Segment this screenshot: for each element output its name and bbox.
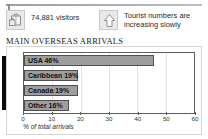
bar-label: USA 46% bbox=[25, 57, 58, 64]
bar-canada: Canada 19% bbox=[24, 85, 78, 96]
trend-text: Tourist numbers are increasing slowly bbox=[124, 10, 190, 29]
bar-usa: USA 46% bbox=[24, 55, 154, 66]
bar-caribbean: Caribbean 19% bbox=[24, 70, 78, 81]
suitcase-icon bbox=[6, 10, 25, 30]
tick-label: 20 bbox=[77, 115, 84, 122]
top-divider bbox=[6, 4, 202, 6]
plot-area: USA 46%Caribbean 19%Canada 19%Other 16% bbox=[23, 52, 195, 114]
chart-panel: USA 46%Caribbean 19%Canada 19%Other 16% … bbox=[6, 46, 202, 135]
stat-visitors: 74,881 visitors bbox=[6, 10, 79, 34]
bar-label: Caribbean 19% bbox=[25, 72, 78, 79]
x-axis-ticks: 0102030405060 bbox=[23, 115, 195, 123]
visitors-count: 74,881 visitors bbox=[31, 10, 79, 23]
bar-label: Canada 19% bbox=[25, 87, 69, 94]
tick-label: 0 bbox=[21, 115, 24, 122]
tick-label: 40 bbox=[134, 115, 141, 122]
bar-other: Other 16% bbox=[24, 100, 69, 111]
infographic-page: 74,881 visitors Tourist numbers are incr… bbox=[0, 0, 208, 139]
tick-label: 60 bbox=[192, 115, 199, 122]
bar-label: Other 16% bbox=[25, 102, 63, 109]
x-axis-label: % of total arrivals bbox=[23, 123, 74, 130]
up-arrow-icon bbox=[99, 10, 118, 30]
tick-label: 10 bbox=[48, 115, 55, 122]
stats-row: 74,881 visitors Tourist numbers are incr… bbox=[6, 10, 202, 34]
stat-trend: Tourist numbers are increasing slowly bbox=[99, 10, 190, 34]
bar-series: USA 46%Caribbean 19%Canada 19%Other 16% bbox=[24, 53, 194, 113]
tick-label: 30 bbox=[106, 115, 113, 122]
section-title: MAIN OVERSEAS ARRIVALS bbox=[6, 36, 123, 46]
tick-label: 50 bbox=[163, 115, 170, 122]
